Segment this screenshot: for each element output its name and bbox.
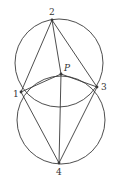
point-3	[96, 86, 99, 89]
label-point-p: P	[63, 63, 71, 73]
geometry-diagram: 1 2 3 4 P	[0, 0, 114, 179]
label-point-2: 2	[49, 7, 55, 17]
point-2	[51, 19, 54, 22]
segment-2-3	[52, 20, 97, 87]
segment-3-P	[61, 74, 97, 87]
label-point-3: 3	[101, 82, 107, 92]
segment-2-1	[21, 20, 52, 92]
point-1	[20, 91, 23, 94]
label-point-4: 4	[56, 167, 62, 177]
point-p	[60, 73, 63, 76]
point-4	[58, 162, 61, 165]
segment-2-P	[52, 20, 61, 74]
label-point-1: 1	[13, 89, 19, 99]
segment-P-4	[59, 74, 61, 163]
segment-1-P	[21, 74, 61, 92]
